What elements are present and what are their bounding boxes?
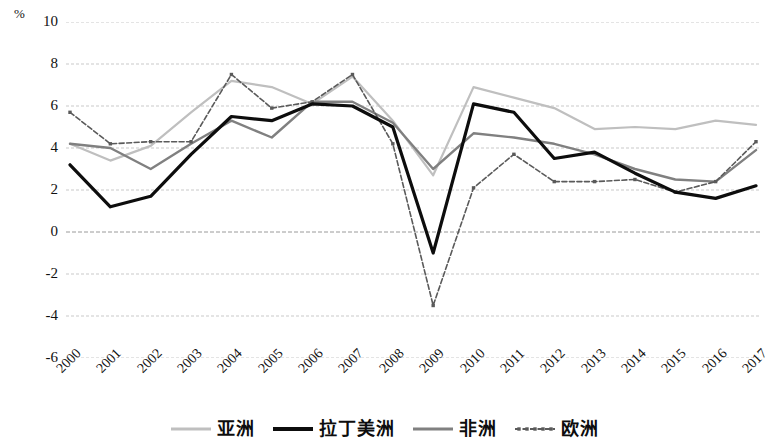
- y-tick-label: 10: [12, 14, 58, 29]
- series-line: [70, 77, 756, 176]
- legend-label-asia: 亚洲: [217, 420, 255, 438]
- data-point-marker: [109, 142, 112, 145]
- legend-swatch-africa: [412, 422, 454, 436]
- data-point-marker: [230, 73, 233, 76]
- y-axis-tick-labels: 1086420-2-4-6: [0, 0, 58, 444]
- legend-marker: [533, 427, 536, 430]
- data-point-marker: [633, 178, 636, 181]
- data-point-marker: [68, 111, 71, 114]
- y-tick-label: 0: [12, 224, 58, 239]
- chart-legend: 亚洲拉丁美洲非洲欧洲: [0, 414, 769, 444]
- legend-swatch-europe: [514, 422, 556, 436]
- legend-swatch-latin-america: [272, 422, 314, 436]
- y-tick-label: 6: [12, 98, 58, 113]
- legend-label-europe: 欧洲: [561, 420, 599, 438]
- chart-canvas: [66, 22, 760, 358]
- legend-item-latin-america[interactable]: 拉丁美洲: [272, 420, 395, 438]
- data-point-marker: [472, 186, 475, 189]
- y-tick-label: 8: [12, 56, 58, 71]
- legend-item-asia[interactable]: 亚洲: [170, 420, 255, 438]
- data-point-marker: [512, 153, 515, 156]
- legend-marker: [517, 427, 520, 430]
- y-tick-label: -2: [12, 266, 58, 281]
- data-point-marker: [270, 106, 273, 109]
- legend-label-latin-america: 拉丁美洲: [319, 420, 395, 438]
- line-chart: % 1086420-2-4-6 200020012002200320042005…: [0, 0, 769, 444]
- data-point-marker: [351, 73, 354, 76]
- data-point-marker: [553, 180, 556, 183]
- legend-label-africa: 非洲: [459, 420, 497, 438]
- data-point-marker: [189, 140, 192, 143]
- y-tick-label: -4: [12, 308, 58, 323]
- data-point-marker: [431, 304, 434, 307]
- data-point-marker: [714, 180, 717, 183]
- data-point-marker: [593, 180, 596, 183]
- series-亚洲: [70, 77, 756, 176]
- y-tick-label: 2: [12, 182, 58, 197]
- y-tick-label: 4: [12, 140, 58, 155]
- data-point-marker: [391, 142, 394, 145]
- legend-marker: [525, 427, 528, 430]
- legend-marker: [549, 427, 552, 430]
- legend-swatch-asia: [170, 422, 212, 436]
- plot-area: [66, 22, 760, 358]
- data-point-marker: [149, 140, 152, 143]
- y-tick-label: -6: [12, 350, 58, 365]
- data-point-marker: [754, 140, 757, 143]
- legend-item-europe[interactable]: 欧洲: [514, 420, 599, 438]
- legend-item-africa[interactable]: 非洲: [412, 420, 497, 438]
- legend-marker: [541, 427, 544, 430]
